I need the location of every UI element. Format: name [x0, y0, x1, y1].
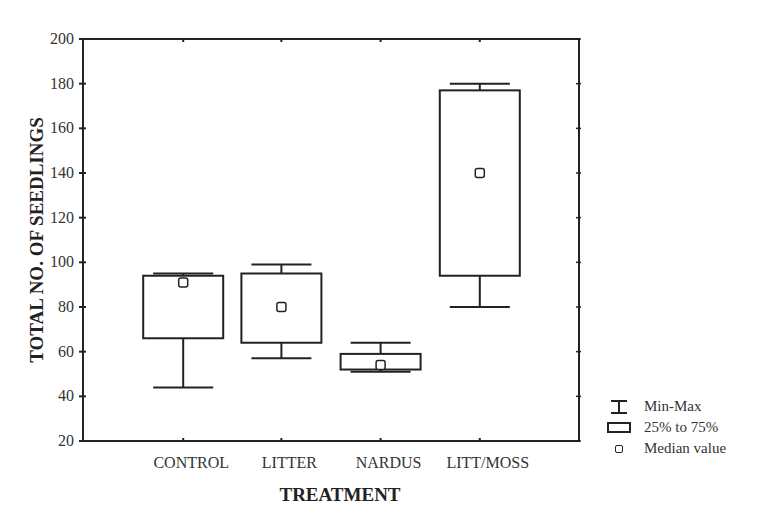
- iqr-box: [440, 90, 520, 275]
- y-tick-label: 180: [50, 75, 74, 92]
- legend-label-minmax: Min-Max: [644, 398, 702, 415]
- y-tick-label: 120: [50, 209, 74, 226]
- median-marker: [179, 278, 188, 287]
- legend-item-box: 25% to 75%: [606, 417, 726, 438]
- y-axis-label-container: TOTAL NO. OF SEEDLINGS: [22, 39, 52, 441]
- median-square-icon: [606, 440, 634, 458]
- x-tick-label: CONTROL: [153, 454, 229, 471]
- y-tick-label: 160: [50, 119, 74, 136]
- legend-item-minmax: Min-Max: [606, 396, 726, 417]
- x-tick-label: LITT/MOSS: [446, 454, 529, 471]
- y-tick-label: 80: [58, 298, 74, 315]
- median-marker: [277, 303, 286, 312]
- y-tick-label: 200: [50, 30, 74, 47]
- box-control: [143, 274, 223, 388]
- whisker-icon: [606, 398, 634, 416]
- legend: Min-Max 25% to 75% Median value: [606, 396, 726, 459]
- legend-item-median: Median value: [606, 438, 726, 459]
- y-axis-label: TOTAL NO. OF SEEDLINGS: [26, 117, 48, 363]
- y-tick-label: 60: [58, 343, 74, 360]
- box-icon: [606, 419, 634, 437]
- box-series: [143, 84, 520, 388]
- y-tick-label: 140: [50, 164, 74, 181]
- box-litter: [241, 265, 321, 359]
- box-nardus: [341, 343, 421, 372]
- y-tick-label: 100: [50, 253, 74, 270]
- median-marker: [475, 169, 484, 178]
- x-tick-label: NARDUS: [356, 454, 422, 471]
- y-tick-label: 20: [58, 432, 74, 449]
- median-marker: [376, 361, 385, 370]
- legend-label-median: Median value: [644, 440, 726, 457]
- y-tick-label: 40: [58, 387, 74, 404]
- legend-label-box: 25% to 75%: [644, 419, 718, 436]
- x-tick-label: LITTER: [262, 454, 317, 471]
- box-litt-moss: [440, 84, 520, 307]
- x-axis-label: TREATMENT: [0, 484, 680, 506]
